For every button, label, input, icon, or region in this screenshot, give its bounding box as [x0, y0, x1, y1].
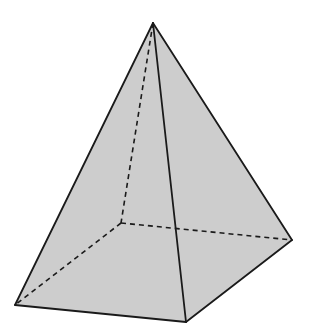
- pyramid-figure: [0, 0, 315, 333]
- pyramid-diagram: [0, 0, 315, 333]
- pyramid-faces: [15, 23, 292, 322]
